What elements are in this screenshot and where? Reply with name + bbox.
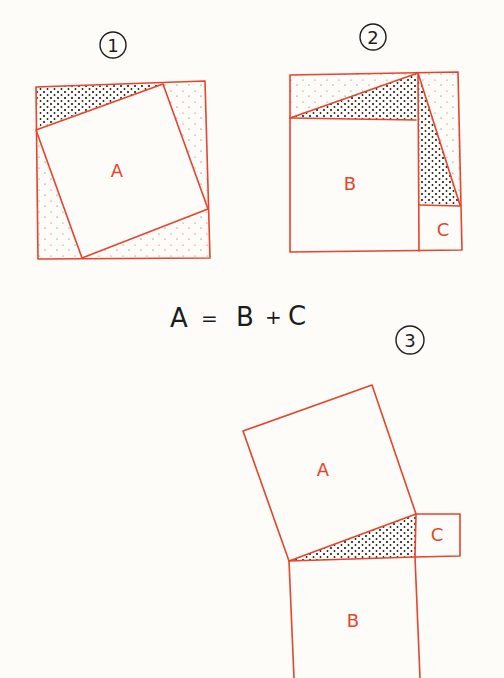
divider	[418, 73, 419, 251]
equation-equals: =	[201, 306, 218, 330]
equation-lhs: A	[170, 303, 188, 333]
label-b: B	[347, 610, 359, 631]
square-b-left	[289, 561, 294, 678]
panel-number: 1	[107, 35, 118, 56]
label-c: C	[437, 219, 450, 240]
square-b-right	[415, 557, 420, 678]
equation-c: C	[288, 301, 306, 331]
panel-1: 1 A	[36, 32, 210, 259]
pythagoras-diagram: 1 A 2 B C A = B + C 3	[0, 0, 504, 678]
label-b: B	[344, 173, 356, 194]
label-a: A	[317, 459, 330, 480]
label-a: A	[111, 160, 124, 181]
panel-number: 2	[367, 27, 378, 48]
divider	[419, 205, 460, 206]
equation-plus: +	[265, 305, 282, 329]
panel-3: 3 A C B	[243, 326, 460, 678]
equation-b: B	[236, 302, 254, 332]
label-c: C	[431, 524, 444, 545]
panel-number: 3	[404, 330, 415, 351]
panel-2: 2 B C	[290, 24, 462, 252]
equation: A = B + C	[170, 301, 306, 333]
